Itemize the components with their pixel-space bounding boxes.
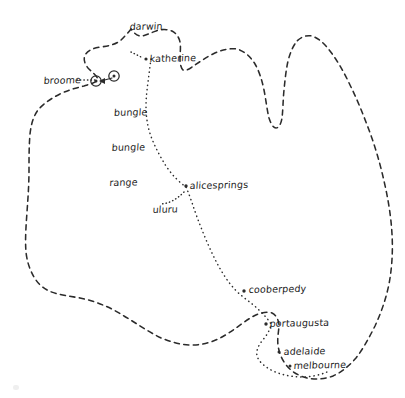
arrow-head-icon xyxy=(99,78,105,84)
marker-dot-melbourne xyxy=(289,365,292,368)
place-label-melbourne: melbourne xyxy=(293,359,346,372)
marker-dot-adelaide xyxy=(278,351,281,354)
place-label-darwin: darwin xyxy=(129,20,163,32)
map-canvas: darwin katherine broome bungle bungle ra… xyxy=(0,0,405,398)
route-spur-uluru xyxy=(160,192,184,204)
route-spur-katherine xyxy=(131,52,143,58)
marker-dot-bungle-bungle-range xyxy=(113,75,116,78)
place-label-adelaide: adelaide xyxy=(283,345,326,357)
place-label-portaugusta: portaugusta xyxy=(269,317,329,330)
place-label-broome: broome xyxy=(43,74,81,86)
bungle-line-3: range xyxy=(109,177,143,189)
map-drawing xyxy=(0,0,405,398)
place-label-katherine: katherine xyxy=(149,52,196,64)
paper-smudge-artifact xyxy=(13,385,19,390)
travel-route-dotted-path xyxy=(146,59,327,377)
bungle-line-2: bungle xyxy=(111,141,145,153)
marker-dot-broome xyxy=(95,80,98,83)
place-label-uluru: uluru xyxy=(152,203,178,215)
marker-dot-portaugusta xyxy=(264,322,267,325)
place-label-cooberpedy: cooberpedy xyxy=(248,283,307,296)
marker-dot-cooberpedy xyxy=(242,289,245,292)
marker-dot-katherine xyxy=(144,57,147,60)
bungle-line-1: bungle xyxy=(114,106,148,118)
marker-dot-alicesprings xyxy=(184,184,187,187)
place-label-alicesprings: alicesprings xyxy=(189,179,248,192)
